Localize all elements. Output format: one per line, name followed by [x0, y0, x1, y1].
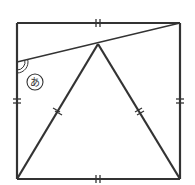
diagonal-line — [17, 23, 180, 62]
triangle-right-side — [98, 44, 180, 179]
angle-label: あ — [27, 74, 43, 90]
triangle-left-side — [17, 44, 98, 179]
angle-label-text: あ — [30, 77, 40, 88]
triangle — [17, 44, 180, 179]
geometry-diagram: あ — [0, 0, 195, 185]
